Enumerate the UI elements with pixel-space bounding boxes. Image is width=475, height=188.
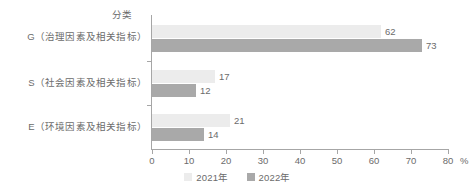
x-axis-label-30: 30 bbox=[258, 155, 269, 166]
bar-e-2021[interactable] bbox=[152, 114, 230, 127]
chart-legend: 2021年 2022年 bbox=[0, 170, 475, 184]
legend-swatch-2022-icon bbox=[247, 173, 255, 181]
bar-s-2021[interactable] bbox=[152, 70, 215, 83]
bar-value-g-2022: 73 bbox=[426, 39, 437, 52]
y-axis-title: 分类 bbox=[112, 7, 133, 21]
x-axis-label-40: 40 bbox=[295, 155, 306, 166]
x-axis-label-60: 60 bbox=[369, 155, 380, 166]
legend-swatch-2021-icon bbox=[184, 173, 192, 181]
legend-label-2021: 2021年 bbox=[196, 170, 228, 184]
x-axis-tick bbox=[448, 150, 449, 154]
x-axis-unit: % bbox=[460, 155, 468, 166]
y-axis-tick bbox=[147, 61, 151, 62]
legend-item-2021[interactable]: 2021年 bbox=[184, 170, 228, 184]
x-axis-tick bbox=[226, 150, 227, 154]
bar-value-e-2022: 14 bbox=[208, 128, 219, 141]
category-label-e: E（环境因素及相关指标） bbox=[28, 119, 147, 133]
x-axis-label-80: 80 bbox=[443, 155, 454, 166]
x-axis-label-20: 20 bbox=[221, 155, 232, 166]
y-axis-tick bbox=[147, 105, 151, 106]
x-axis-label-70: 70 bbox=[406, 155, 417, 166]
legend-label-2022: 2022年 bbox=[259, 170, 291, 184]
x-axis-tick bbox=[411, 150, 412, 154]
x-axis-tick bbox=[337, 150, 338, 154]
x-axis-tick bbox=[189, 150, 190, 154]
x-axis-tick bbox=[374, 150, 375, 154]
x-axis-tick bbox=[300, 150, 301, 154]
bar-value-s-2021: 17 bbox=[219, 70, 230, 83]
bar-value-s-2022: 12 bbox=[200, 84, 211, 97]
x-axis-label-0: 0 bbox=[149, 155, 154, 166]
legend-item-2022[interactable]: 2022年 bbox=[247, 170, 291, 184]
bar-g-2022[interactable] bbox=[152, 39, 422, 52]
bar-e-2022[interactable] bbox=[152, 128, 204, 141]
x-axis-label-10: 10 bbox=[184, 155, 195, 166]
category-label-s: S（社会因素及相关指标） bbox=[28, 75, 147, 89]
bar-value-g-2021: 62 bbox=[385, 25, 396, 38]
bar-s-2022[interactable] bbox=[152, 84, 196, 97]
category-label-g: G（治理因素及相关指标） bbox=[27, 29, 147, 43]
bar-value-e-2021: 21 bbox=[234, 114, 245, 127]
bar-g-2021[interactable] bbox=[152, 25, 381, 38]
x-axis-label-50: 50 bbox=[332, 155, 343, 166]
x-axis-tick bbox=[152, 150, 153, 154]
bar-chart: 分类 G（治理因素及相关指标） S（社会因素及相关指标） E（环境因素及相关指标… bbox=[0, 0, 475, 188]
x-axis-tick bbox=[263, 150, 264, 154]
